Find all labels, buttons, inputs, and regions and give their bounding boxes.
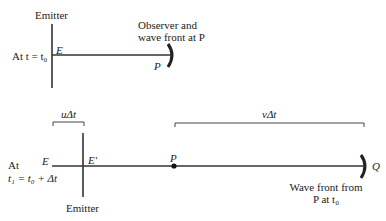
bottom-point-e-prime: E′ xyxy=(88,154,97,166)
bottom-time-label-line2: t₁ = t₀ + Δt xyxy=(8,172,57,184)
bracket-u xyxy=(53,122,84,126)
bottom-point-e: E xyxy=(42,155,49,167)
observer-label-line1: Observer and xyxy=(138,19,197,31)
wavefront-label-line1: Wave front from xyxy=(286,181,366,193)
bracket-v xyxy=(175,123,364,127)
bottom-point-q: Q xyxy=(372,160,380,172)
top-point-e: E xyxy=(56,44,63,56)
point-p-dot xyxy=(171,163,176,168)
bottom-time-label-line1: At xyxy=(8,159,19,171)
bracket-u-label: uΔt xyxy=(61,108,76,120)
top-emitter-label: Emitter xyxy=(35,9,68,21)
observer-label-line2: wave front at P xyxy=(138,31,205,43)
top-time-label: At t = t₀ xyxy=(12,50,47,62)
wavefront-label-line2: P at t₀ xyxy=(286,193,366,205)
bracket-v-label: vΔt xyxy=(262,108,276,120)
top-point-p: P xyxy=(154,60,161,72)
bottom-point-p: P xyxy=(170,152,177,164)
bottom-emitter-label: Emitter xyxy=(66,202,99,214)
